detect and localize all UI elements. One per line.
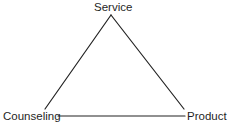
- node-label-counseling: Counseling: [3, 110, 61, 123]
- edge-service-product: [111, 15, 184, 109]
- node-label-product: Product: [187, 110, 227, 123]
- triangle-diagram: [0, 0, 230, 126]
- node-label-service: Service: [94, 1, 132, 14]
- edge-service-counseling: [45, 15, 111, 109]
